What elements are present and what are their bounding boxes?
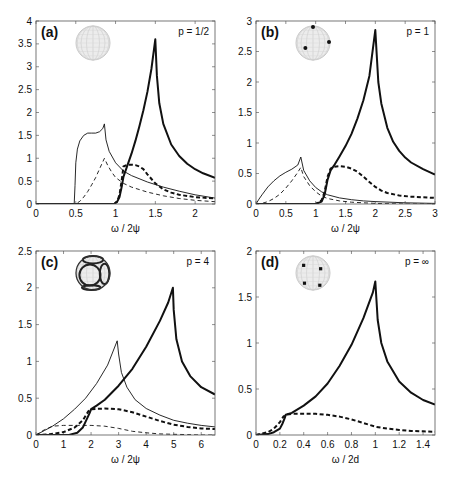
series-thick-solid — [256, 30, 435, 204]
p-value-annotation: p = 1/2 — [178, 26, 209, 37]
panel-b: 00.511.522.5300.511.522.53(b)p = 1ω / 2ψ — [238, 16, 438, 235]
axis-ticks: 00.511.522.5300.511.522.53 — [238, 16, 438, 220]
p-value-annotation: p = 4 — [186, 256, 209, 267]
series-group — [256, 30, 435, 204]
x-tick-label: 1 — [313, 208, 319, 219]
sphere-inset-icon — [76, 256, 110, 290]
series-thick-solid — [256, 281, 435, 435]
x-tick-label: 5 — [171, 439, 177, 450]
dot-marker-icon — [302, 264, 305, 267]
y-tick-label: 3.5 — [18, 38, 32, 49]
panel-d: 00.20.40.60.811.21.400.511.52(d)p = ∞ω /… — [238, 246, 435, 466]
x-tick-label: 1 — [61, 439, 67, 450]
y-tick-label: 1 — [246, 138, 252, 149]
y-tick-label: 1.5 — [18, 319, 32, 330]
series-thin-solid — [256, 157, 435, 204]
plot-frame — [36, 21, 215, 204]
p-value-annotation: p = ∞ — [405, 256, 429, 267]
y-tick-label: 0 — [26, 199, 32, 210]
x-tick-label: 0 — [253, 439, 259, 450]
plot-frame — [256, 251, 435, 435]
y-tick-label: 0.5 — [18, 176, 32, 187]
axis-ticks: 00.20.40.60.811.21.400.511.52 — [238, 246, 435, 451]
x-axis-label: ω / 2ψ — [111, 223, 140, 234]
series-thick-solid — [36, 39, 215, 204]
x-tick-label: 1.4 — [416, 439, 430, 450]
y-tick-label: 0.5 — [18, 393, 32, 404]
axis-ticks: 00.511.5200.511.522.533.54 — [18, 16, 215, 220]
plot-frame — [36, 251, 215, 435]
panel-label: (a) — [41, 24, 58, 40]
x-tick-label: 3 — [432, 208, 438, 219]
y-tick-label: 2 — [26, 107, 32, 118]
y-tick-label: 1 — [26, 356, 32, 367]
x-tick-label: 6 — [198, 439, 204, 450]
x-axis-label: ω / 2ψ — [111, 454, 140, 465]
panel-c: 012345600.511.522.5(c)p = 4ω / 2ψ — [18, 246, 215, 466]
axis-ticks: 012345600.511.522.5 — [18, 246, 215, 451]
series-thin-solid — [36, 341, 215, 435]
y-tick-label: 2 — [26, 282, 32, 293]
panel-a: 00.511.5200.511.522.533.54(a)p = 1/2ω / … — [18, 16, 215, 235]
sphere-inset-icon — [76, 26, 110, 60]
y-tick-label: 0 — [246, 199, 252, 210]
dot-marker-icon — [303, 282, 306, 285]
figure: 00.511.5200.511.522.533.54(a)p = 1/2ω / … — [0, 0, 451, 481]
y-tick-label: 0 — [26, 430, 32, 441]
plot-frame — [256, 21, 435, 204]
y-tick-label: 3 — [26, 61, 32, 72]
series-group — [36, 39, 215, 204]
x-axis-label: ω / 2ψ — [331, 223, 360, 234]
x-tick-label: 1.5 — [339, 208, 353, 219]
dot-marker-icon — [311, 25, 315, 29]
x-tick-label: 3 — [116, 439, 122, 450]
y-tick-label: 2.5 — [238, 46, 252, 57]
y-tick-label: 2.5 — [18, 246, 32, 257]
x-tick-label: 0.6 — [321, 439, 335, 450]
x-tick-label: 1.2 — [392, 439, 406, 450]
x-tick-label: 2 — [192, 208, 198, 219]
y-tick-label: 1.5 — [18, 130, 32, 141]
y-tick-label: 0.5 — [238, 168, 252, 179]
y-tick-label: 1.5 — [238, 107, 252, 118]
p-value-annotation: p = 1 — [406, 26, 429, 37]
x-tick-label: 4 — [143, 439, 149, 450]
series-group — [256, 281, 435, 435]
y-tick-label: 2 — [246, 77, 252, 88]
x-tick-label: 0 — [33, 439, 39, 450]
y-tick-label: 1 — [26, 153, 32, 164]
y-tick-label: 1 — [246, 338, 252, 349]
x-tick-label: 0.8 — [345, 439, 359, 450]
x-tick-label: 1.5 — [148, 208, 162, 219]
series-thick-solid — [36, 288, 215, 435]
sphere-inset-icon — [296, 256, 330, 290]
x-tick-label: 0.5 — [279, 208, 293, 219]
x-tick-label: 0 — [33, 208, 39, 219]
y-tick-label: 3 — [246, 16, 252, 27]
y-tick-label: 0.5 — [238, 384, 252, 395]
panel-label: (c) — [41, 254, 58, 270]
series-thick-dashed — [256, 166, 435, 204]
y-tick-label: 2.5 — [18, 84, 32, 95]
y-tick-label: 4 — [26, 16, 32, 27]
dot-marker-icon — [327, 40, 331, 44]
series-group — [36, 288, 215, 435]
x-tick-label: 1 — [373, 439, 379, 450]
series-thick-dashed — [36, 409, 215, 436]
x-tick-label: 0 — [253, 208, 259, 219]
x-tick-label: 2 — [373, 208, 379, 219]
x-tick-label: 0.4 — [297, 439, 311, 450]
dot-marker-icon — [303, 46, 307, 50]
x-tick-label: 2 — [88, 439, 94, 450]
x-axis-label: ω / 2d — [332, 454, 359, 465]
y-tick-label: 1.5 — [238, 292, 252, 303]
dot-marker-icon — [318, 284, 321, 287]
x-tick-label: 2.5 — [398, 208, 412, 219]
x-tick-label: 0.5 — [69, 208, 83, 219]
dot-marker-icon — [319, 267, 322, 270]
panel-label: (d) — [261, 254, 279, 270]
panel-label: (b) — [261, 24, 279, 40]
y-tick-label: 0 — [246, 430, 252, 441]
sphere-inset-icon — [296, 25, 331, 60]
x-tick-label: 0.2 — [273, 439, 287, 450]
